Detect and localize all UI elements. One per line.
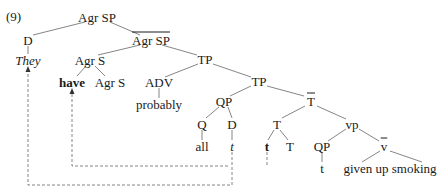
- node-agrsp-bar: Agr SP: [132, 34, 170, 47]
- node-d-2: D: [227, 118, 236, 131]
- node-t-head: T: [286, 140, 294, 153]
- leaf-have: have: [59, 76, 85, 89]
- example-number: (9): [6, 10, 21, 23]
- node-agrsp-root: Agr SP: [78, 11, 116, 24]
- node-agrs-head: Agr S: [95, 76, 126, 89]
- leaf-probably: probably: [136, 98, 182, 111]
- leaf-all: all: [196, 140, 209, 153]
- node-adv: ADV: [145, 76, 173, 89]
- leaf-trace-qp: t: [320, 162, 324, 175]
- leaf-trace-bold: t: [265, 140, 269, 153]
- node-q: Q: [197, 118, 206, 131]
- leaf-they: They: [15, 54, 40, 67]
- node-t-bar: T: [307, 95, 315, 108]
- node-qp-1: QP: [216, 95, 233, 108]
- leaf-trace-d: t: [230, 140, 234, 153]
- node-v-bar: v: [381, 140, 388, 153]
- leaf-given-up-smoking: given up smoking: [343, 162, 436, 175]
- node-t: T: [273, 118, 281, 131]
- node-d: D: [23, 34, 32, 47]
- node-tp-2: TP: [251, 75, 266, 88]
- node-tp-1: TP: [197, 53, 212, 66]
- node-qp-2: QP: [314, 140, 331, 153]
- node-vp: vp: [346, 118, 359, 131]
- node-agrs: Agr S: [75, 54, 106, 67]
